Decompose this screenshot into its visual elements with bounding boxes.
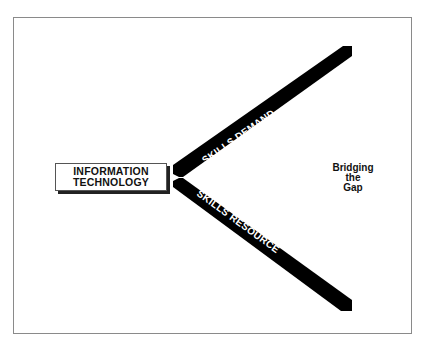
gap-line3: Gap — [318, 183, 388, 193]
skills-resource-label: SKILLS RESOURCE — [195, 188, 282, 255]
information-technology-box: INFORMATION TECHNOLOGY — [55, 163, 167, 191]
it-box-line2: TECHNOLOGY — [73, 177, 149, 188]
skills-demand-label: SKILLS DEMAND — [200, 107, 277, 165]
bridging-the-gap-label: Bridging the Gap — [318, 163, 388, 193]
